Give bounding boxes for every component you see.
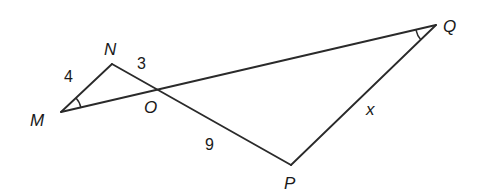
length-label-OP: 9 [205, 136, 214, 153]
length-label-QP: x [365, 100, 375, 119]
length-label-MN: 4 [64, 68, 73, 85]
geometry-diagram: M N O P Q 4 3 9 x [0, 0, 478, 193]
point-label-M: M [30, 111, 45, 130]
point-label-N: N [104, 40, 117, 59]
point-label-O: O [144, 98, 157, 117]
point-label-P: P [284, 174, 296, 193]
segment-QP [291, 25, 436, 165]
segment-MQ [61, 25, 436, 112]
length-label-NO: 3 [137, 55, 146, 72]
point-label-Q: Q [443, 17, 456, 36]
angle-mark-Q [416, 30, 421, 40]
angle-mark-M [76, 98, 81, 108]
